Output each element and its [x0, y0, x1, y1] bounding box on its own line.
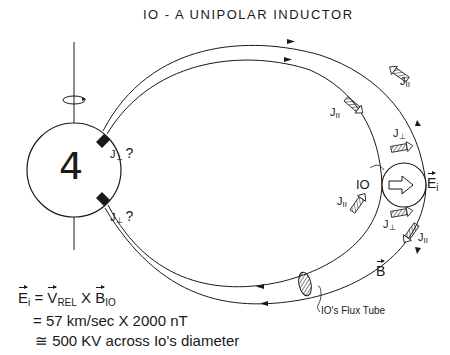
eq-equals: = [30, 289, 47, 306]
j-par-inner-top-arrow-icon [343, 95, 366, 117]
b-field-label: B [376, 264, 385, 278]
flux-tube-cross-section [297, 271, 314, 297]
io-leader-line [370, 165, 384, 170]
j-perp-lower-sub: ⊥ [116, 216, 123, 225]
jupiter-symbol: 4 [59, 147, 83, 185]
j-perp-upper-question: ? [126, 145, 134, 161]
diagram-title: IO - A UNIPOLAR INDUCTOR [143, 8, 354, 21]
flux-tube-label: IO's Flux Tube [321, 306, 385, 316]
e-field-sub: i [436, 182, 438, 193]
j-perp-io-bottom-sub: ⊥ [389, 223, 396, 232]
e-field-label: Ei [427, 176, 439, 193]
j-perp-lower-question: ? [126, 208, 134, 224]
j-par-inner-bottom-label: JII [337, 196, 347, 209]
equation-line-3: ≅ 500 KV across Io's diameter [35, 333, 239, 348]
j-perp-lower-label: J⊥ ? [110, 209, 133, 225]
j-perp-upper-label: J⊥ ? [110, 146, 133, 162]
j-perp-io-top-label: J⊥ [393, 128, 406, 141]
eq-v-sub: REL [57, 297, 76, 308]
field-line-inner-top [107, 60, 382, 185]
j-perp-upper-sub: ⊥ [116, 153, 123, 162]
j-perp-io-bottom-label: J⊥ [383, 219, 396, 232]
j-par-outer-bottom-label: JII [418, 232, 428, 245]
j-par-outer-top-sub: II [406, 80, 410, 89]
j-par-outer-bottom-sub: II [424, 236, 428, 245]
j-par-inner-bottom-sub: II [343, 200, 347, 209]
j-perp-io-top-arrow-icon [390, 141, 413, 155]
j-par-inner-top-label: JII [330, 107, 340, 120]
eq-b-letter: B [95, 290, 105, 305]
equation-line-2: = 57 km/sec X 2000 nT [33, 313, 188, 328]
j-perp-io-bottom-arrow-icon [390, 206, 413, 220]
equation-line-1: Ei = VREL X BIO [18, 290, 116, 308]
j-par-outer-top-label: JII [400, 76, 410, 89]
eq-times: X [77, 289, 95, 306]
b-field-letter: B [376, 264, 385, 278]
eq-e-letter: E [18, 290, 28, 305]
diagram-canvas: IO - A UNIPOLAR INDUCTOR 4 J⊥ ? J⊥ ? JII… [0, 0, 450, 355]
j-par-inner-top-sub: II [336, 111, 340, 120]
j-par-inner-bottom-arrow-icon [348, 191, 369, 215]
io-label: IO [356, 178, 370, 191]
field-line-outer-bottom [105, 185, 426, 304]
eq-b-sub: IO [105, 297, 116, 308]
field-line-outer-top [103, 45, 426, 185]
eq-v-letter: V [47, 290, 57, 305]
e-field-letter: E [427, 176, 436, 190]
j-perp-io-top-sub: ⊥ [399, 132, 406, 141]
